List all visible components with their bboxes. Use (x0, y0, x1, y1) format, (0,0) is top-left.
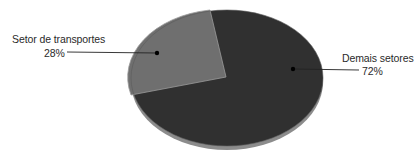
label-name: Demais setores (342, 52, 408, 64)
leader-dot-others (291, 67, 295, 71)
label-percent: 72% (362, 65, 383, 77)
leader-dot-transport (155, 51, 159, 55)
label-name: Setor de transportes (12, 33, 94, 45)
label-demais-setores: Demais setores 72% (342, 52, 408, 64)
pie-chart: Setor de transportes 28% Demais setores … (0, 0, 416, 157)
label-setor-transportes: Setor de transportes 28% (12, 33, 94, 45)
pie-chart-graphic (0, 0, 416, 157)
label-percent: 28% (44, 47, 65, 59)
